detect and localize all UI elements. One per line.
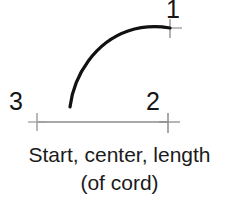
caption-line-2: (of cord) xyxy=(0,169,239,197)
tick-point-3 xyxy=(28,113,46,131)
point-label-1: 1 xyxy=(166,0,180,22)
figure-caption: Start, center, length (of cord) xyxy=(0,141,239,197)
tick-point-2 xyxy=(159,113,180,133)
point-label-2: 2 xyxy=(146,89,160,114)
point-label-3: 3 xyxy=(9,89,23,114)
arc-construction-figure: 1 2 3 Start, center, length (of cord) xyxy=(0,0,239,217)
caption-line-1: Start, center, length xyxy=(0,141,239,169)
